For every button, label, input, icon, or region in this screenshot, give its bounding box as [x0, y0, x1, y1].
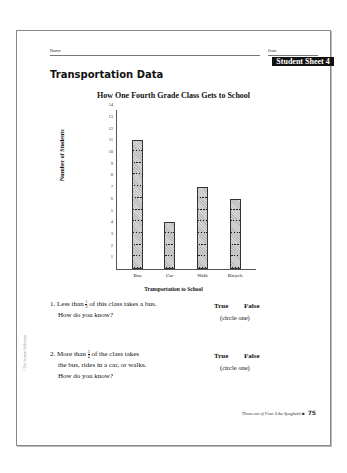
question-1: 1. Less than 13 of this class takes a bu… — [50, 299, 156, 321]
y-tick-label: 14 — [103, 102, 113, 107]
bar-walk — [197, 187, 208, 269]
x-tick-label: Bicycle — [221, 273, 251, 278]
y-tick-label: 13 — [103, 114, 113, 119]
question-1-true-false: True False — [214, 302, 274, 310]
chart-title: How One Fourth Grade Class Gets to Schoo… — [17, 91, 330, 100]
copyright-note: © Dale Seymour Publications — [23, 335, 27, 371]
y-tick-label: 10 — [103, 149, 113, 154]
y-tick-label: 2 — [103, 243, 113, 248]
worksheet-page: Name Date Student Sheet 4 Transportation… — [16, 30, 331, 446]
q2-circle-hint: (circle one) — [220, 364, 250, 371]
q1-true-option[interactable]: True — [214, 302, 228, 310]
bar-bus — [132, 140, 143, 269]
fraction-three-fourths: 34 — [88, 350, 90, 359]
y-tick-label: 1 — [103, 254, 113, 259]
fraction-one-third: 13 — [85, 300, 87, 309]
q1-circle-hint: (circle one) — [220, 314, 250, 321]
y-axis-label: Number of Students — [59, 129, 65, 181]
q2-false-option[interactable]: False — [244, 352, 260, 360]
y-tick-label: 9 — [103, 161, 113, 166]
question-2-true-false: True False — [214, 352, 274, 360]
y-tick-label: 12 — [103, 126, 113, 131]
y-tick-label: 7 — [103, 184, 113, 189]
y-tick-label: 4 — [103, 219, 113, 224]
page-number: 75 — [308, 409, 316, 416]
question-2: 2. More than 34 of the class takes the b… — [50, 349, 146, 382]
q2-true-option[interactable]: True — [214, 352, 228, 360]
y-tick-label: 3 — [103, 231, 113, 236]
page-footer: Three out of Four Like Spaghetti ■75 — [242, 409, 316, 416]
y-tick-label: 11 — [103, 137, 113, 142]
x-tick-label: Walk — [188, 273, 218, 278]
y-tick-label: 8 — [103, 172, 113, 177]
x-axis-label: Transportation to School — [17, 286, 330, 292]
y-axis — [116, 110, 117, 269]
y-tick-label: 6 — [103, 196, 113, 201]
q1-false-option[interactable]: False — [244, 302, 260, 310]
bar-chart: How One Fourth Grade Class Gets to Schoo… — [17, 31, 330, 331]
bar-bicycle — [230, 199, 241, 269]
x-tick-label: Car — [155, 273, 185, 278]
y-tick-label: 5 — [103, 208, 113, 213]
bar-car — [164, 222, 175, 269]
x-tick-label: Bus — [123, 273, 153, 278]
x-axis — [116, 269, 256, 270]
